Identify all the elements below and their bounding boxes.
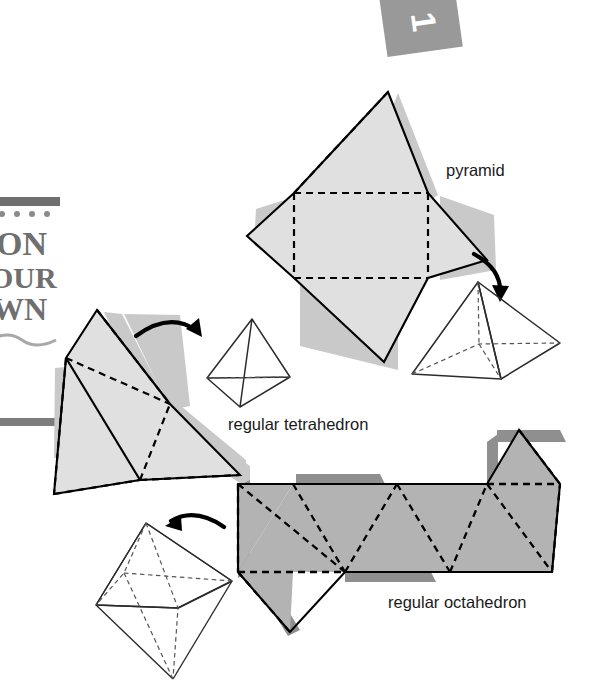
banner-line-2: OUR (0, 261, 57, 294)
arrow-octahedron (165, 515, 224, 531)
octahedron-solid-back-hidden-right (124, 573, 232, 581)
pyramid-net-base (294, 193, 428, 278)
regular-octahedron-label: regular octahedron (388, 593, 527, 611)
on-your-own-banner: ON OUR WN (0, 197, 60, 426)
pyramid-net (247, 92, 496, 370)
arrow-tetrahedron-head (186, 318, 202, 337)
pyramid-solid (412, 282, 560, 379)
pyramid-solid-base-back-hidden (479, 344, 501, 379)
octahedron-solid (96, 523, 232, 679)
banner-bottom-bar (0, 418, 56, 426)
octahedron-solid-back-hidden-bottom (124, 573, 173, 679)
geometry-nets-figure: 1 ON OUR WN (0, 0, 601, 685)
banner-line-1: ON (0, 225, 47, 262)
octahedron-solid-front-edge (96, 581, 232, 608)
diagram-page: 1 ON OUR WN (0, 0, 601, 685)
octahedron-solid-top-right (146, 523, 232, 581)
banner-top-bar (0, 197, 60, 206)
chapter-tab: 1 (379, 0, 463, 57)
pyramid-solid-apex-hidden (478, 282, 479, 344)
pyramid-solid-front-right-face (478, 282, 560, 379)
pyramid-solid-front-left-face (412, 282, 501, 379)
octahedron-solid-top-left (96, 523, 146, 605)
pyramid-solid-base-hidden (412, 343, 560, 374)
regular-tetrahedron-label: regular tetrahedron (228, 415, 368, 433)
tetrahedron-solid-edges (207, 319, 290, 407)
banner-dots (0, 211, 50, 217)
octahedron-solid-bottom-left (96, 605, 173, 679)
tetrahedron-solid (207, 319, 290, 407)
tetrahedron-net (54, 310, 250, 494)
banner-line-3: WN (0, 291, 47, 327)
pyramid-label: pyramid (446, 161, 505, 179)
banner-squiggle (0, 335, 56, 345)
